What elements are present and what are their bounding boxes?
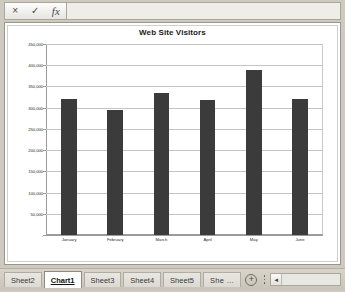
sheet-tab-she[interactable]: She … — [203, 272, 241, 287]
y-axis-label: 250,000 — [28, 126, 43, 131]
y-axis-label: 350,000 — [28, 84, 43, 89]
formula-input[interactable] — [66, 2, 341, 20]
x-axis-label: March — [138, 237, 184, 249]
bar-april[interactable] — [200, 100, 216, 235]
y-axis-label: - — [42, 233, 43, 238]
bar-slot — [231, 44, 277, 235]
y-axis-label: 150,000 — [28, 169, 43, 174]
chart-title: Web Site Visitors — [8, 28, 337, 37]
y-axis-label: 100,000 — [28, 190, 43, 195]
plot-area: 450,000400,000350,000300,000250,000200,0… — [46, 44, 323, 235]
sheet-tab-bar: Sheet2Chart1Sheet3Sheet4Sheet5She … + ◄ — [0, 268, 345, 290]
bar-february[interactable] — [107, 110, 123, 235]
sheet-tab-chart1[interactable]: Chart1 — [44, 271, 82, 288]
y-axis-label: 50,000 — [30, 211, 43, 216]
y-axis-label: 400,000 — [28, 63, 43, 68]
chart-sheet: Web Site Visitors 450,000400,000350,0003… — [4, 22, 341, 265]
bar-slot — [185, 44, 231, 235]
y-axis-label: 200,000 — [28, 148, 43, 153]
formula-bar-buttons: × ✓ fx — [4, 2, 66, 20]
bar-slot — [92, 44, 138, 235]
bar-slot — [277, 44, 323, 235]
chart-area[interactable]: Web Site Visitors 450,000400,000350,0003… — [7, 25, 338, 262]
bar-series — [46, 44, 323, 235]
x-axis-label: January — [46, 237, 92, 249]
x-axis-label: February — [92, 237, 138, 249]
gridline — [46, 235, 323, 236]
insert-function-icon[interactable]: fx — [46, 3, 65, 19]
scroll-track[interactable] — [282, 274, 340, 285]
y-axis-tick — [43, 235, 46, 236]
formula-bar: × ✓ fx — [4, 2, 341, 20]
accept-icon[interactable]: ✓ — [26, 3, 45, 19]
bar-march[interactable] — [154, 93, 170, 235]
x-axis-label: June — [277, 237, 323, 249]
tab-split-handle[interactable] — [261, 273, 267, 287]
y-axis-label: 300,000 — [28, 105, 43, 110]
y-axis-label: 450,000 — [28, 42, 43, 47]
bar-june[interactable] — [292, 99, 308, 235]
excel-chart-sheet-window: × ✓ fx Web Site Visitors 450,000400,0003… — [0, 0, 345, 292]
bar-slot — [138, 44, 184, 235]
sheet-tabs: Sheet2Chart1Sheet3Sheet4Sheet5She … — [4, 271, 243, 288]
bar-slot — [46, 44, 92, 235]
x-axis-label: May — [231, 237, 277, 249]
bar-january[interactable] — [61, 99, 77, 235]
bar-may[interactable] — [246, 70, 262, 235]
horizontal-scrollbar[interactable]: ◄ — [270, 273, 341, 286]
sheet-tab-sheet3[interactable]: Sheet3 — [84, 272, 122, 287]
sheet-tab-sheet5[interactable]: Sheet5 — [163, 272, 201, 287]
add-sheet-button[interactable]: + — [245, 274, 257, 286]
x-axis-label: April — [185, 237, 231, 249]
sheet-tab-sheet2[interactable]: Sheet2 — [4, 272, 42, 287]
cancel-icon[interactable]: × — [6, 3, 25, 19]
x-axis-labels: JanuaryFebruaryMarchAprilMayJune — [46, 237, 323, 249]
sheet-tab-sheet4[interactable]: Sheet4 — [123, 272, 161, 287]
scroll-left-icon[interactable]: ◄ — [271, 274, 282, 285]
